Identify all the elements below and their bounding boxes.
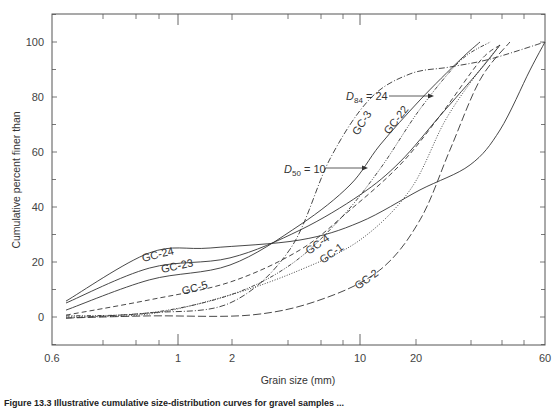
arrowhead-icon [428, 94, 434, 99]
y-tick-label: 0 [38, 311, 44, 323]
curve-gc-22 [66, 42, 480, 310]
curve-gc-1 [66, 45, 500, 317]
label-gc-3: GC-3 [350, 108, 374, 137]
annotation-d50: D50 = 10 [284, 163, 326, 178]
label-gc-23: GC-23 [160, 256, 194, 274]
x-tick-label: 1 [175, 352, 181, 364]
y-tick-label: 80 [32, 91, 44, 103]
curve-gc-2 [66, 42, 510, 318]
x-tick-label: 60 [539, 352, 551, 364]
y-tick-label: 20 [32, 256, 44, 268]
x-tick-label: 0.6 [44, 352, 59, 364]
chart-canvas: 020406080100 0.612102060 Cumulative perc… [0, 0, 560, 400]
x-tick-label: 20 [410, 352, 422, 364]
label-gc-22: GC-22 [381, 103, 410, 136]
figure-caption: Figure 13.3 Illustrative cumulative size… [4, 398, 556, 408]
y-tick-label: 100 [26, 36, 44, 48]
y-tick-label: 60 [32, 146, 44, 158]
x-tick-label: 2 [229, 352, 235, 364]
curve-gc-23 [66, 45, 500, 303]
label-gc-2: GC-2 [352, 266, 380, 291]
curves-group [66, 42, 545, 318]
y-axis: 020406080100 [26, 15, 545, 345]
label-gc-5: GC-5 [180, 278, 209, 297]
x-tick-label: 10 [354, 352, 366, 364]
plot-frame [52, 14, 545, 345]
x-axis-title: Grain size (mm) [261, 374, 336, 386]
curve-gc-3 [66, 42, 545, 318]
y-tick-label: 40 [32, 201, 44, 213]
y-axis-title: Cumulative percent finer than [10, 111, 22, 248]
